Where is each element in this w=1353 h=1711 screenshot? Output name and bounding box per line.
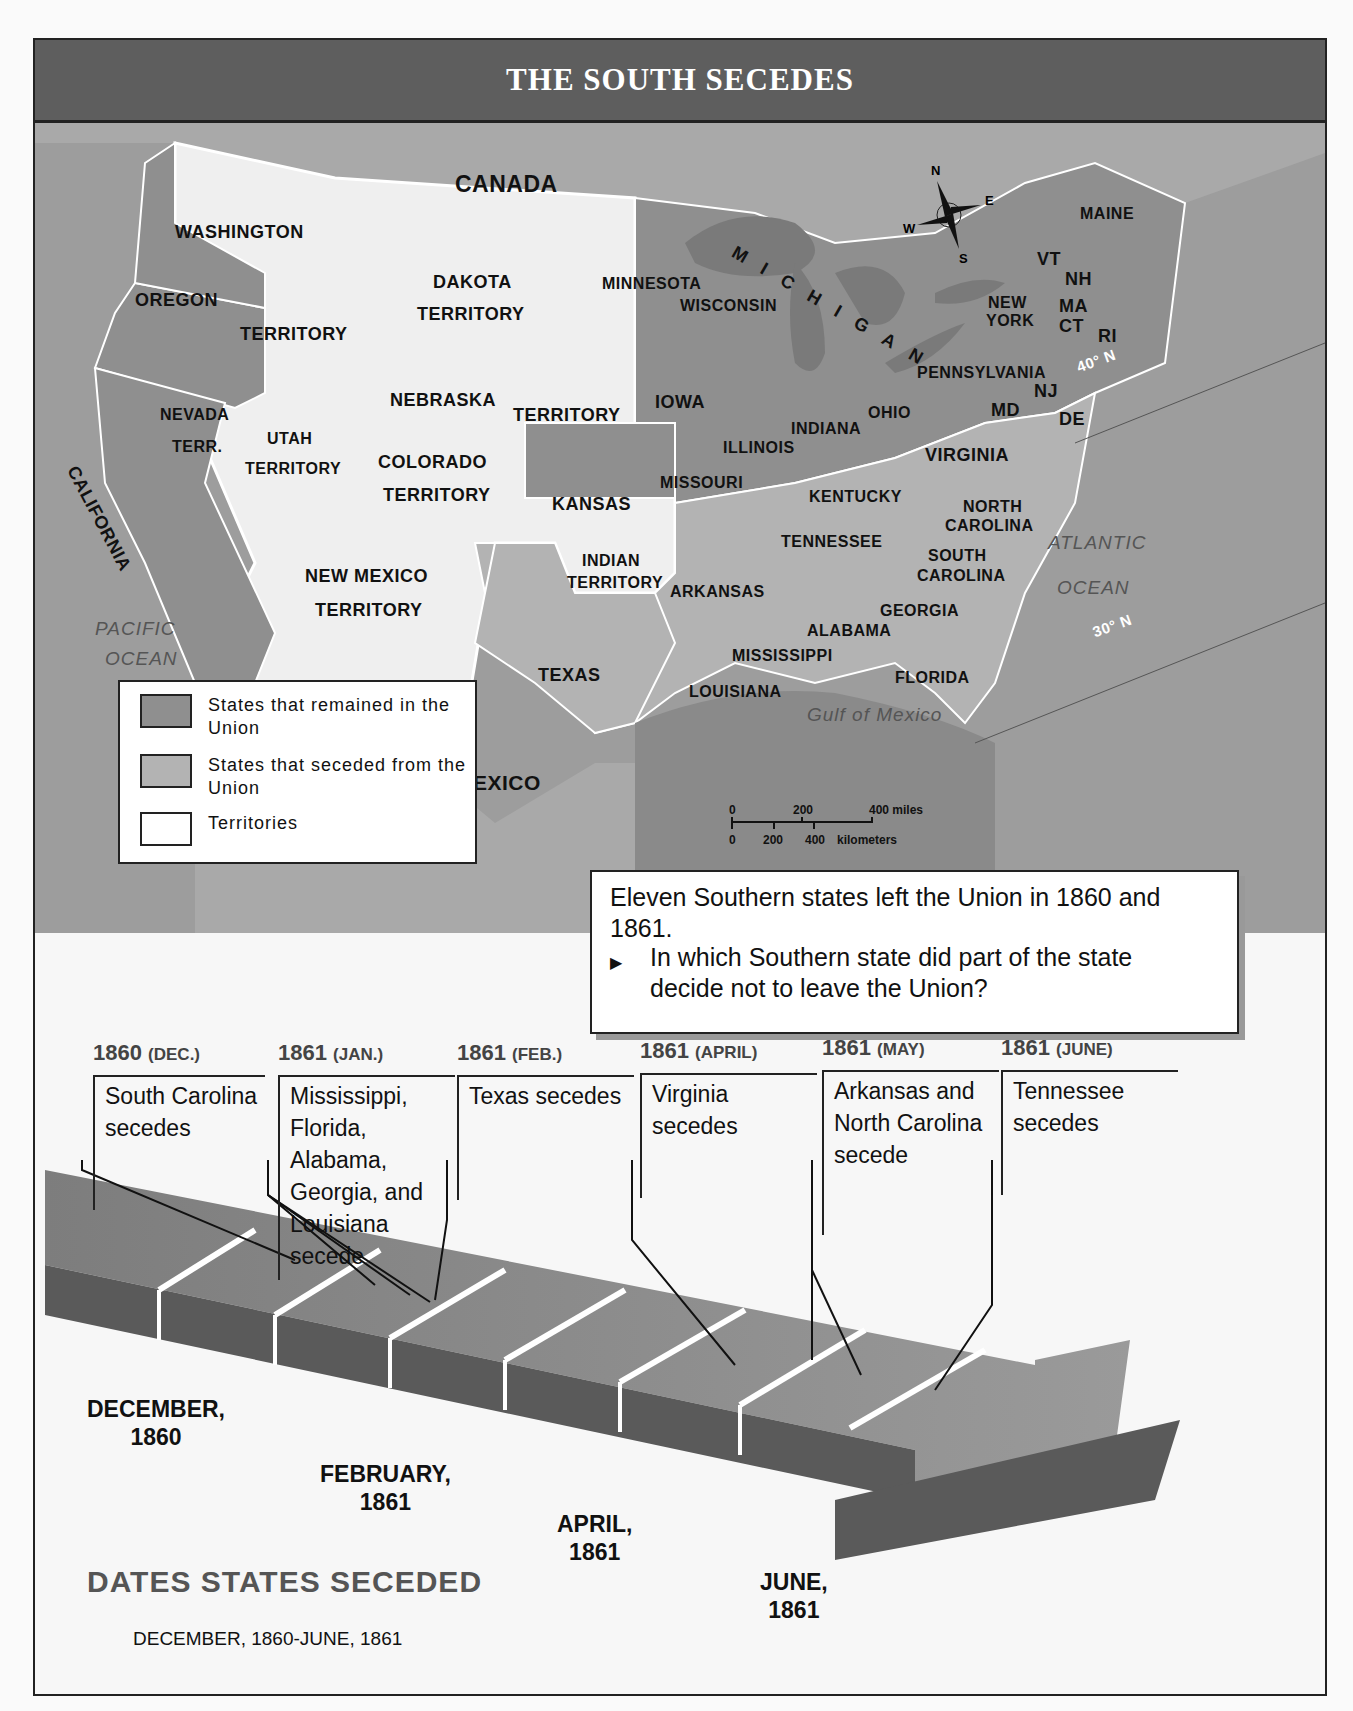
label-kansas: KANSAS (552, 495, 631, 513)
legend-swatch-union (140, 694, 192, 728)
label-atlantic-ocean: OCEAN (1057, 578, 1130, 597)
label-ma: MA (1059, 297, 1088, 315)
label-mississippi: MISSISSIPPI (732, 648, 833, 664)
label-md: MD (991, 401, 1020, 419)
label-pennsylvania: PENNSYLVANIA (917, 365, 1046, 381)
map-legend: States that remained in the Union States… (118, 680, 477, 864)
event-text: Virginia secedes (640, 1073, 817, 1198)
timeline-event-april-1861: 1861 (APRIL) Virginia secedes (640, 1038, 757, 1064)
label-gulf-of-mexico: Gulf of Mexico (807, 705, 942, 724)
label-oregon: OREGON (135, 291, 218, 309)
label-north-carolina-1: NORTH (963, 499, 1022, 515)
bullet-arrow-icon: ▶ (610, 947, 622, 978)
tick-december-1860: DECEMBER, 1860 (87, 1395, 225, 1451)
label-nj: NJ (1034, 382, 1058, 400)
legend-swatch-seceded (140, 754, 192, 788)
label-atlantic: ATLANTIC (1048, 533, 1146, 552)
event-text: Texas secedes (457, 1075, 634, 1200)
label-dakota-territory: TERRITORY (417, 305, 525, 323)
label-wisconsin: WISCONSIN (680, 298, 777, 314)
label-indian: INDIAN (582, 553, 640, 569)
event-text: South Carolina secedes (93, 1075, 265, 1210)
timeline-event-jan-1861: 1861 (JAN.) Mississippi, Florida, Alabam… (278, 1040, 383, 1066)
label-utah-territory: TERRITORY (245, 461, 341, 477)
label-kentucky: KENTUCKY (809, 489, 902, 505)
label-pacific: PACIFIC (95, 619, 176, 638)
label-colorado: COLORADO (378, 453, 487, 471)
label-washington: WASHINGTON (175, 223, 304, 241)
svg-text:E: E (985, 193, 994, 208)
label-nebraska: NEBRASKA (390, 391, 496, 409)
page-title: THE SOUTH SECEDES (506, 62, 854, 98)
label-louisiana: LOUISIANA (689, 684, 782, 700)
label-florida: FLORIDA (895, 670, 970, 686)
label-nevada-terr: TERR. (172, 439, 223, 455)
label-utah: UTAH (267, 431, 312, 447)
label-washington-territory: TERRITORY (240, 325, 348, 343)
label-colorado-territory: TERRITORY (383, 486, 491, 504)
label-new-mexico-territory: TERRITORY (315, 601, 423, 619)
legend-swatch-territories (140, 812, 192, 846)
label-pacific-ocean: OCEAN (105, 649, 178, 668)
label-dakota: DAKOTA (433, 273, 512, 291)
svg-text:W: W (903, 221, 916, 236)
timeline-event-dec-1860: 1860 (DEC.) South Carolina secedes (93, 1040, 200, 1066)
timeline-title: DATES STATES SECEDED (87, 1565, 482, 1599)
timeline-event-feb-1861: 1861 (FEB.) Texas secedes (457, 1040, 562, 1066)
compass-rose-icon: N S E W (901, 163, 1011, 263)
question-text: In which Southern state did part of the … (650, 942, 1210, 1004)
question-box: Eleven Southern states left the Union in… (590, 870, 1239, 1034)
label-indiana: INDIANA (791, 421, 861, 437)
tick-april-1861: APRIL, 1861 (557, 1510, 632, 1566)
timeline-subtitle: DECEMBER, 1860-JUNE, 1861 (133, 1628, 402, 1650)
timeline-event-june-1861: 1861 (JUNE) Tennessee secedes (1001, 1035, 1113, 1061)
legend-item-seceded: States that seceded from the Union (140, 754, 468, 800)
label-nh: NH (1065, 270, 1092, 288)
svg-text:S: S (959, 251, 968, 263)
label-south-carolina-2: CAROLINA (917, 568, 1005, 584)
label-canada: CANADA (455, 173, 558, 196)
label-indian-territory: TERRITORY (567, 575, 663, 591)
tick-february-1861: FEBRUARY, 1861 (320, 1460, 451, 1516)
map-figure: THE SOUTH SECEDES (33, 38, 1327, 1696)
label-minnesota: MINNESOTA (602, 276, 701, 292)
label-arkansas: ARKANSAS (670, 584, 765, 600)
label-ct: CT (1059, 317, 1084, 335)
timeline-arrow (35, 1160, 1325, 1580)
timeline-event-may-1861: 1861 (MAY) Arkansas and North Carolina s… (822, 1035, 925, 1061)
svg-text:N: N (931, 163, 940, 178)
event-text: Tennessee secedes (1001, 1070, 1178, 1195)
label-virginia: VIRGINIA (925, 446, 1009, 464)
label-georgia: GEORGIA (880, 603, 959, 619)
label-new-york-1: NEW (988, 295, 1027, 311)
event-text: Arkansas and North Carolina secede (822, 1070, 999, 1235)
legend-item-territories: Territories (140, 812, 468, 846)
title-bar: THE SOUTH SECEDES (35, 40, 1325, 123)
label-illinois: ILLINOIS (723, 440, 795, 456)
label-de: DE (1059, 410, 1085, 428)
map-scale: 0 200 400 miles 0 200 400 kilometers (725, 803, 955, 863)
legend-item-union: States that remained in the Union (140, 694, 468, 740)
label-ri: RI (1098, 327, 1117, 345)
label-nebraska-territory: TERRITORY (513, 406, 621, 424)
label-iowa: IOWA (655, 393, 705, 411)
question-statement: Eleven Southern states left the Union in… (610, 882, 1210, 944)
label-alabama: ALABAMA (807, 623, 891, 639)
label-vt: VT (1037, 250, 1061, 268)
label-new-york-2: YORK (986, 313, 1034, 329)
label-ohio: OHIO (868, 405, 911, 421)
tick-june-1861: JUNE, 1861 (760, 1568, 828, 1624)
label-tennessee: TENNESSEE (781, 534, 882, 550)
label-maine: MAINE (1080, 206, 1134, 222)
label-new-mexico: NEW MEXICO (305, 567, 428, 585)
label-missouri: MISSOURI (660, 475, 743, 491)
label-south-carolina-1: SOUTH (928, 548, 987, 564)
label-nevada: NEVADA (160, 407, 229, 423)
event-text: Mississippi, Florida, Alabama, Georgia, … (278, 1075, 455, 1280)
label-texas: TEXAS (538, 666, 601, 684)
label-north-carolina-2: CAROLINA (945, 518, 1033, 534)
